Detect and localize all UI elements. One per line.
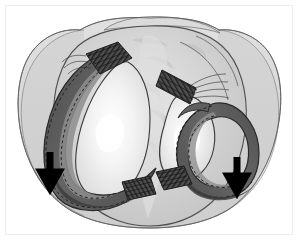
figure-root: Tibial plateau superior view with medial… bbox=[0, 0, 300, 242]
tibial-plateau-illustration bbox=[0, 0, 300, 242]
